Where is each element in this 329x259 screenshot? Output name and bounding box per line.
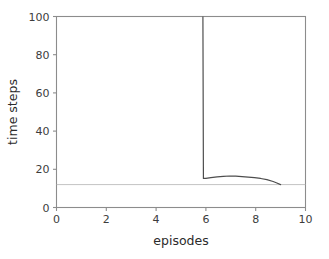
y-tick-label: 80	[36, 49, 50, 62]
y-tick-label: 100	[29, 11, 50, 24]
y-tick-label: 60	[36, 87, 50, 100]
chart-figure: 0246810 020406080100 episodes time steps	[0, 0, 329, 259]
chart-canvas: 0246810 020406080100 episodes time steps	[0, 0, 329, 259]
y-tick-label: 40	[36, 125, 50, 138]
x-axis-title: episodes	[153, 233, 208, 248]
x-tick-label: 10	[299, 213, 313, 226]
x-tick-label: 4	[153, 213, 160, 226]
y-tick-label: 20	[36, 163, 50, 176]
y-axis-title: time steps	[5, 79, 20, 145]
y-tick-label: 0	[43, 202, 50, 215]
x-tick-label: 8	[252, 213, 259, 226]
x-tick-label: 6	[202, 213, 209, 226]
x-tick-label: 2	[103, 213, 110, 226]
x-tick-label: 0	[53, 213, 60, 226]
